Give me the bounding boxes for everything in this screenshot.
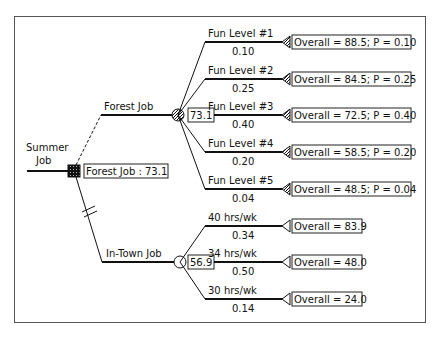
outcome-result: Overall = 48.0: [294, 257, 367, 268]
outcome-label: Fun Level #3: [208, 101, 273, 112]
terminal-node-icon[interactable]: [282, 220, 290, 232]
outcome-result: Overall = 83.9: [294, 221, 367, 232]
terminal-node-icon[interactable]: [282, 256, 290, 268]
root-label-line2: Job: [35, 155, 51, 166]
outcome-label: Fun Level #4: [208, 138, 273, 149]
outcome-prob: 0.04: [232, 193, 254, 204]
outcome-result: Overall = 24.0: [294, 294, 367, 305]
intown-outcome-3: 30 hrs/wk 0.14 Overall = 24.0: [180, 262, 367, 314]
intown-branch-connector: [76, 177, 102, 262]
pruned-mark-2: [84, 211, 97, 217]
forest-branch-label: Forest Job: [104, 101, 153, 112]
outcome-result: Overall = 72.5; P = 0.40: [294, 110, 416, 121]
outcome-prob: 0.34: [232, 230, 254, 241]
outcome-prob: 0.14: [232, 303, 254, 314]
terminal-node-icon[interactable]: [282, 183, 290, 195]
root-value-label: Forest Job : 73.1: [86, 166, 167, 177]
outcome-label: Fun Level #2: [208, 65, 273, 76]
outcome-prob: 0.25: [232, 83, 254, 94]
outcome-prob: 0.20: [232, 156, 254, 167]
decision-tree: Summer Job Forest Job : 73.1 Forest Job …: [0, 0, 442, 337]
outcome-label: 30 hrs/wk: [208, 285, 257, 296]
outcome-result: Overall = 58.5; P = 0.20: [294, 147, 416, 158]
outcome-result: Overall = 48.5; P = 0.04: [294, 184, 416, 195]
terminal-node-icon[interactable]: [282, 36, 290, 48]
forest-outcome-3: Fun Level #3 0.40 Overall = 72.5; P = 0.…: [208, 101, 416, 130]
outcome-label: 40 hrs/wk: [208, 212, 257, 223]
terminal-node-icon[interactable]: [282, 73, 290, 85]
outcome-result: Overall = 88.5; P = 0.10: [294, 37, 416, 48]
terminal-node-icon[interactable]: [282, 146, 290, 158]
forest-branch-connector: [76, 115, 101, 165]
intown-branch-label: In-Town Job: [106, 248, 162, 259]
decision-node-icon[interactable]: [68, 165, 80, 177]
root-label-line1: Summer: [26, 142, 69, 153]
outcome-prob: 0.50: [232, 266, 254, 277]
outcome-label: Fun Level #5: [208, 175, 273, 186]
terminal-node-icon[interactable]: [282, 109, 290, 121]
outcome-label: Fun Level #1: [208, 28, 273, 39]
outcome-prob: 0.10: [232, 46, 254, 57]
terminal-node-icon[interactable]: [282, 293, 290, 305]
outcome-label: 34 hrs/wk: [208, 248, 257, 259]
outcome-result: Overall = 84.5; P = 0.25: [294, 74, 416, 85]
pruned-mark-1: [82, 206, 95, 212]
forest-outcome-4: Fun Level #4 0.20 Overall = 58.5; P = 0.…: [178, 115, 416, 167]
intown-outcome-2: 34 hrs/wk 0.50 Overall = 48.0: [208, 248, 367, 277]
outcome-prob: 0.40: [232, 119, 254, 130]
